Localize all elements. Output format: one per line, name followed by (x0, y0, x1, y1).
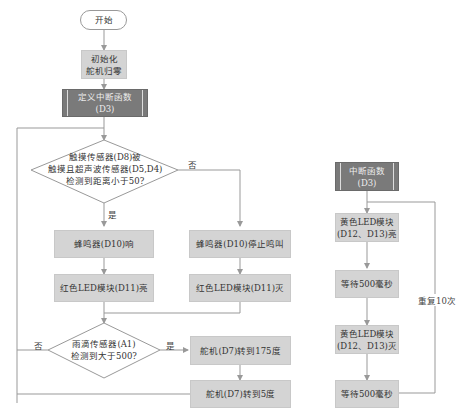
buzzer-off-box: 蜂鸣器(D10)停止鸣叫 (189, 230, 291, 258)
yellow-off-line1: 黄色LED模块 (340, 328, 395, 340)
yellow-led-off-box: 黄色LED模块 (D12、D13)灭 (335, 325, 399, 354)
wait2-label: 等待500毫秒 (341, 388, 393, 400)
wait-500ms-box-2: 等待500毫秒 (335, 380, 399, 408)
start-label: 开始 (95, 14, 113, 26)
yellow-off-line2: (D12、D13)灭 (337, 340, 397, 352)
decision2-yes-label: 是 (166, 339, 175, 351)
decision2-line1: 雨滴传感器(A1) (60, 338, 148, 350)
servo-175-label: 舵机(D7)转到175度 (200, 345, 280, 357)
red-led-on-box: 红色LED模块(D11)亮 (54, 274, 154, 302)
wait-500ms-box-1: 等待500毫秒 (335, 270, 399, 298)
init-box: 初始化 舵机归零 (81, 50, 127, 79)
decision1-line2: 触摸且超声波传感器(D5,D4) (40, 163, 170, 175)
init-line1: 初始化 (91, 53, 118, 65)
decision2-line2: 检测到大于500? (60, 350, 148, 362)
decision1-line1: 触摸传感器(D8)被 (40, 151, 170, 163)
start-terminal: 开始 (80, 10, 127, 30)
red-led-off-box: 红色LED模块(D11)灭 (189, 274, 291, 302)
red-led-off-label: 红色LED模块(D11)灭 (196, 282, 284, 294)
yellow-on-line1: 黄色LED模块 (340, 216, 395, 228)
decision-raindrop: 雨滴传感器(A1) 检测到大于500? (60, 338, 148, 362)
wait1-label: 等待500毫秒 (341, 278, 393, 290)
interrupt-title-line2: (D3) (358, 177, 377, 189)
define-line1: 定义中断函数 (78, 91, 132, 103)
decision1-no-label: 否 (188, 158, 197, 170)
interrupt-function-box: 中断函数 (D3) (335, 162, 399, 191)
decision2-no-label: 否 (34, 339, 43, 351)
decision-touch-ultrasonic: 触摸传感器(D8)被 触摸且超声波传感器(D5,D4) 检测到距离小于50? (40, 151, 170, 187)
red-led-on-label: 红色LED模块(D11)亮 (60, 282, 148, 294)
buzzer-on-label: 蜂鸣器(D10)响 (74, 238, 134, 250)
define-line2: (D3) (96, 103, 115, 115)
define-interrupt-box: 定义中断函数 (D3) (62, 89, 148, 117)
interrupt-title-line1: 中断函数 (349, 165, 385, 177)
repeat-label: 重复10次 (418, 294, 456, 306)
decision1-yes-label: 是 (108, 208, 117, 220)
yellow-led-on-box: 黄色LED模块 (D12、D13)亮 (335, 213, 399, 242)
servo-5-box: 舵机(D7)转到5度 (190, 380, 291, 408)
buzzer-off-label: 蜂鸣器(D10)停止鸣叫 (196, 238, 283, 250)
yellow-on-line2: (D12、D13)亮 (337, 228, 397, 240)
servo-175-box: 舵机(D7)转到175度 (190, 336, 291, 365)
servo-5-label: 舵机(D7)转到5度 (206, 388, 275, 400)
init-line2: 舵机归零 (86, 65, 122, 77)
decision1-line3: 检测到距离小于50? (40, 175, 170, 187)
buzzer-on-box: 蜂鸣器(D10)响 (54, 230, 154, 258)
